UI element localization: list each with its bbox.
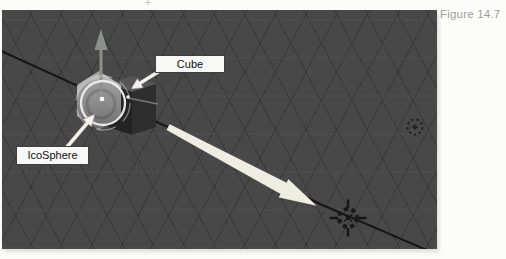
figure-caption: Figure 14.7 <box>440 8 500 20</box>
icosphere-label-text: IcoSphere <box>27 150 77 161</box>
cube-label-text: Cube <box>177 59 203 70</box>
page-crop-mark <box>146 0 151 5</box>
cube-label: Cube <box>155 55 225 73</box>
icosphere-label: IcoSphere <box>16 146 89 165</box>
3d-viewport-canvas[interactable] <box>2 10 437 249</box>
